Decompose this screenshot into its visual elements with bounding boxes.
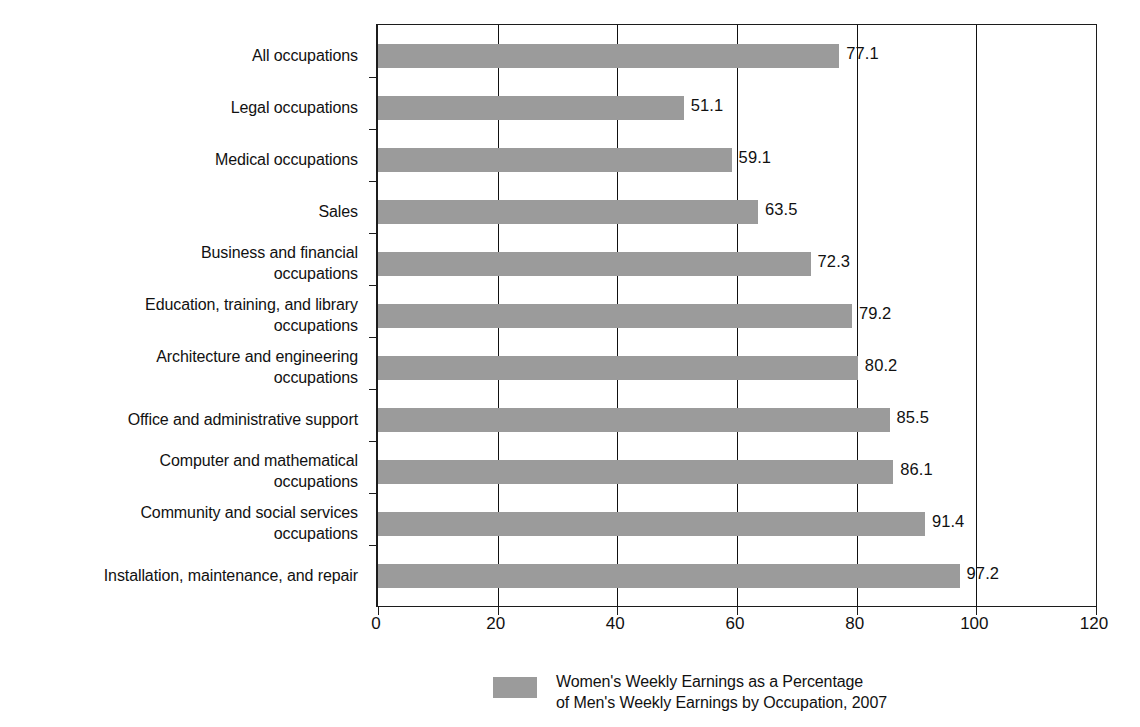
category-tick: [369, 285, 378, 286]
value-tick-label: 40: [606, 614, 625, 634]
category-tick: [369, 129, 378, 130]
legend-swatch: [493, 677, 537, 698]
value-tick-label: 0: [371, 614, 380, 634]
plot-area: 77.151.159.163.572.379.280.285.586.191.4…: [376, 24, 1097, 607]
value-tick-label: 80: [845, 614, 864, 634]
chart-legend: Women's Weekly Earnings as a Percentage …: [493, 672, 887, 713]
category-tick: [369, 389, 378, 390]
bar-value-label: 85.5: [897, 405, 930, 429]
bar-row: 86.1: [378, 446, 1096, 498]
bar: [378, 200, 758, 224]
category-label: Sales: [18, 201, 358, 222]
category-tick: [369, 545, 378, 546]
value-tick-label: 20: [486, 614, 505, 634]
bar-value-label: 80.2: [865, 353, 898, 377]
bar-value-label: 59.1: [739, 145, 772, 169]
bar: [378, 44, 839, 68]
bar-value-label: 91.4: [932, 509, 965, 533]
bar: [378, 304, 852, 328]
bar-value-label: 77.1: [846, 41, 879, 65]
bar: [378, 512, 925, 536]
bar-row: 97.2: [378, 550, 1096, 602]
value-tick-label: 120: [1080, 614, 1108, 634]
bar-value-label: 51.1: [691, 93, 724, 117]
category-tick: [369, 493, 378, 494]
bar-row: 85.5: [378, 394, 1096, 446]
bar-row: 51.1: [378, 82, 1096, 134]
category-tick: [369, 181, 378, 182]
value-tick-label: 100: [960, 614, 988, 634]
bar-value-label: 97.2: [967, 561, 1000, 585]
category-label: Office and administrative support: [18, 409, 358, 430]
bar-row: 72.3: [378, 238, 1096, 290]
bar-value-label: 72.3: [818, 249, 851, 273]
bar: [378, 460, 893, 484]
bar: [378, 148, 732, 172]
value-tick-label: 60: [726, 614, 745, 634]
bar-value-label: 86.1: [900, 457, 933, 481]
bar-value-label: 63.5: [765, 197, 798, 221]
bar: [378, 356, 858, 380]
category-label: Business and financial occupations: [18, 242, 358, 284]
bar: [378, 408, 890, 432]
category-tick: [369, 77, 378, 78]
bar-row: 79.2: [378, 290, 1096, 342]
category-label: Computer and mathematical occupations: [18, 450, 358, 492]
bar-row: 63.5: [378, 186, 1096, 238]
category-tick: [369, 441, 378, 442]
bar-row: 59.1: [378, 134, 1096, 186]
legend-label: Women's Weekly Earnings as a Percentage …: [556, 672, 887, 713]
bar: [378, 564, 960, 588]
category-label: All occupations: [18, 45, 358, 66]
bar: [378, 96, 684, 120]
category-label: Medical occupations: [18, 149, 358, 170]
bar-row: 77.1: [378, 30, 1096, 82]
category-label: Legal occupations: [18, 97, 358, 118]
category-tick: [369, 337, 378, 338]
bar-row: 91.4: [378, 498, 1096, 550]
bar-row: 80.2: [378, 342, 1096, 394]
category-label: Architecture and engineering occupations: [18, 346, 358, 388]
bar: [378, 252, 811, 276]
category-label: Education, training, and library occupat…: [18, 294, 358, 336]
bar-value-label: 79.2: [859, 301, 892, 325]
category-tick: [369, 233, 378, 234]
category-label: Installation, maintenance, and repair: [18, 565, 358, 586]
category-label: Community and social services occupation…: [18, 502, 358, 544]
bar-chart: All occupationsLegal occupationsMedical …: [0, 0, 1140, 727]
